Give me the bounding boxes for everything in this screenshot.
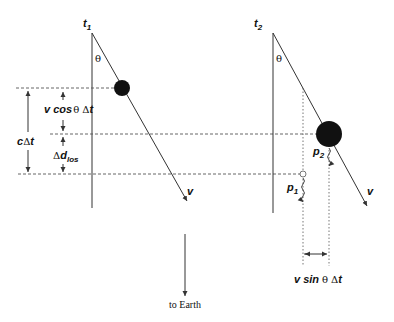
p2-label: p2	[312, 145, 325, 160]
to-earth-label: to Earth	[169, 299, 201, 310]
earth-direction: to Earth	[169, 234, 201, 310]
c-dt-label: cΔt	[17, 135, 35, 147]
t1-theta-label: θ	[95, 53, 101, 64]
delta-d-los-label: Δdlos	[53, 149, 79, 164]
t2-blob	[316, 121, 342, 147]
p1-point	[300, 171, 306, 177]
t2-label: t2	[254, 17, 263, 32]
diagram-canvas: t1 θ v cΔt v cosθΔt Δdlos t2	[0, 0, 394, 322]
t1-label: t1	[83, 17, 92, 32]
delta-d-los-measure: Δdlos	[53, 137, 79, 172]
p1-label: p1	[286, 181, 299, 196]
t1-v-label: v	[187, 185, 194, 197]
v-cos-measure: v cosθΔt	[44, 92, 94, 131]
v-cos-label: v cosθΔt	[44, 103, 94, 115]
t1-velocity-vector	[92, 33, 187, 201]
t2-v-label: v	[367, 185, 374, 197]
v-sin-label: v sinθΔt	[294, 273, 343, 285]
frame-t1: t1 θ v	[83, 17, 194, 208]
t2-theta-label: θ	[276, 53, 282, 64]
t1-blob	[114, 80, 130, 96]
c-delta-t-measure: cΔt	[17, 91, 35, 172]
frame-t2: t2 θ v p1 p2 v sinθΔt	[254, 17, 374, 285]
p1-photon-wave	[302, 178, 305, 202]
